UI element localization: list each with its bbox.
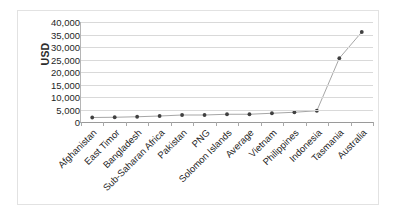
series-line [92, 32, 362, 118]
x-axis-tick [81, 122, 82, 126]
plot-area [80, 22, 373, 123]
y-axis-tick-label: 35,000 [40, 31, 80, 40]
y-axis-tick-labels: 40,00035,00030,00025,00020,00015,00010,0… [40, 18, 80, 120]
gridline [81, 72, 373, 73]
x-axis-tick [328, 122, 329, 126]
gridline [81, 47, 373, 48]
data-point-marker [135, 115, 139, 119]
data-point-marker [292, 110, 296, 114]
x-axis-tick [103, 122, 104, 126]
x-axis-tick [171, 122, 172, 126]
y-axis-tick-label: 5,000 [40, 106, 80, 115]
x-axis-tick [193, 122, 194, 126]
x-axis-tick [261, 122, 262, 126]
gridline [81, 110, 373, 111]
data-point-marker [203, 113, 207, 117]
y-axis-tick-label: 20,000 [40, 68, 80, 77]
data-point-marker [90, 116, 94, 120]
chart-container: USD 40,00035,00030,00025,00020,00015,000… [17, 10, 379, 205]
y-axis-tick-label: 25,000 [40, 56, 80, 65]
x-axis-tick [283, 122, 284, 126]
y-axis-tick-label: 15,000 [40, 81, 80, 90]
data-point-marker [158, 114, 162, 118]
gridline [81, 85, 373, 86]
x-axis-tick [238, 122, 239, 126]
x-axis-tick [306, 122, 307, 126]
gridline [81, 22, 373, 23]
gridline [81, 60, 373, 61]
x-axis-tick [148, 122, 149, 126]
x-axis-tick-labels: AfghanistanEast TimorBangladeshSub-Sahar… [80, 127, 372, 207]
data-point-marker [270, 111, 274, 115]
x-axis-tick [216, 122, 217, 126]
x-axis-tick [126, 122, 127, 126]
x-axis-tick [351, 122, 352, 126]
y-axis-tick-label: 0 [40, 118, 80, 127]
gridline [81, 97, 373, 98]
data-point-marker [360, 30, 364, 34]
y-axis-tick-label: 30,000 [40, 43, 80, 52]
x-axis-tick [373, 122, 374, 126]
y-axis-tick-label: 10,000 [40, 93, 80, 102]
data-point-marker [180, 113, 184, 117]
data-point-marker [225, 112, 229, 116]
data-point-marker [248, 112, 252, 116]
data-point-marker [113, 115, 117, 119]
y-axis-tick-label: 40,000 [40, 18, 80, 27]
gridline [81, 35, 373, 36]
